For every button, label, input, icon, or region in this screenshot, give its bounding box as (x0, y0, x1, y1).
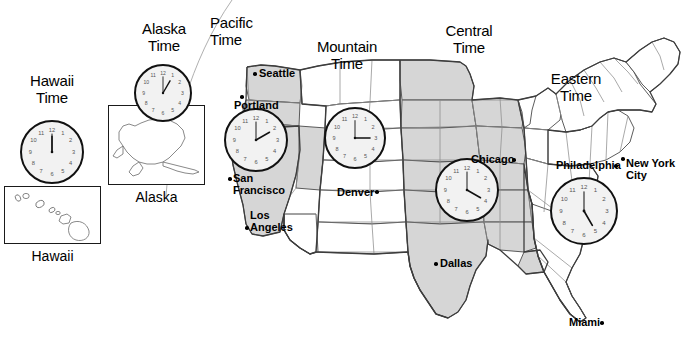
clock-face-pacific: 1212 345 678 91011 (226, 110, 286, 170)
clock-face-central: 1212 345 678 91011 (437, 160, 497, 220)
svg-text:6: 6 (582, 231, 586, 238)
svg-text:4: 4 (69, 160, 72, 166)
city-dot-dallas (434, 262, 438, 266)
city-dot-seattle (253, 72, 257, 76)
svg-text:11: 11 (569, 186, 576, 193)
clock-face-alaska: 1212 345 678 91011 (136, 66, 190, 120)
svg-text:9: 9 (233, 137, 236, 143)
svg-text:3: 3 (605, 207, 609, 214)
svg-text:8: 8 (562, 219, 566, 226)
svg-text:2: 2 (602, 195, 606, 202)
city-label-portland: Portland (234, 99, 279, 111)
svg-text:12: 12 (253, 115, 259, 121)
svg-text:11: 11 (38, 130, 44, 136)
clock-center (51, 151, 54, 154)
clock-face-eastern: 1212 345 678 91011 (552, 179, 616, 243)
city-label-philadelphia: Philadelphia (556, 159, 621, 171)
svg-text:12: 12 (581, 183, 588, 190)
florida-detail (566, 282, 586, 318)
hawaii-islands-shape (5, 187, 102, 245)
hour-hand (256, 132, 270, 140)
city-dot-los-angeles (245, 226, 249, 230)
svg-text:2: 2 (69, 137, 72, 143)
svg-text:11: 11 (453, 168, 459, 174)
svg-text:3: 3 (181, 90, 184, 96)
hour-hand (163, 81, 170, 93)
hour-hand (467, 190, 481, 198)
clock-center (255, 139, 258, 142)
city-label-miami: Miami (569, 316, 600, 328)
city-label-seattle: Seattle (259, 67, 295, 79)
svg-text:5: 5 (265, 156, 268, 162)
svg-text:2: 2 (273, 125, 276, 131)
svg-text:12: 12 (160, 70, 166, 76)
svg-text:2: 2 (484, 175, 487, 181)
svg-text:1: 1 (61, 130, 64, 136)
city-label-san-francisco: San Francisco (233, 172, 285, 196)
alaska-inset-caption: Alaska (108, 189, 205, 205)
svg-text:1: 1 (364, 116, 367, 122)
svg-text:7: 7 (343, 153, 346, 159)
city-dot-portland (240, 95, 244, 99)
svg-text:7: 7 (40, 168, 43, 174)
svg-text:4: 4 (484, 198, 487, 204)
svg-text:9: 9 (142, 90, 145, 96)
hour-hand (584, 211, 592, 225)
clock-face-hawaii: 1212 345 678 91011 (22, 122, 82, 182)
zone-title-pacific: Pacific Time (210, 14, 294, 48)
svg-text:2: 2 (178, 79, 181, 85)
svg-text:7: 7 (244, 156, 247, 162)
city-dot-denver (375, 190, 379, 194)
svg-text:4: 4 (602, 219, 606, 226)
zone-title-alaska: Alaska Time (122, 20, 206, 54)
svg-text:10: 10 (334, 124, 340, 130)
zone-title-mountain: Mountain Time (300, 38, 394, 72)
svg-text:12: 12 (352, 113, 358, 119)
clock-central: 1212 345 678 91011 (435, 158, 499, 222)
svg-text:9: 9 (559, 207, 563, 214)
svg-text:6: 6 (162, 110, 165, 116)
svg-text:1: 1 (265, 118, 268, 124)
city-label-denver: Denver (337, 186, 374, 198)
clock-center (583, 210, 586, 213)
city-label-los-angeles: Los Angeles (250, 209, 293, 233)
svg-text:3: 3 (374, 135, 377, 141)
svg-text:7: 7 (571, 227, 575, 234)
zone-title-eastern: Eastern Time (530, 70, 622, 104)
svg-text:11: 11 (342, 116, 348, 122)
svg-text:10: 10 (143, 79, 149, 85)
clock-pacific: 1212 345 678 91011 (224, 108, 288, 172)
svg-text:4: 4 (273, 148, 276, 154)
svg-text:1: 1 (594, 186, 598, 193)
svg-text:6: 6 (254, 159, 257, 165)
svg-text:6: 6 (465, 209, 468, 215)
svg-text:8: 8 (236, 148, 239, 154)
svg-text:10: 10 (561, 195, 568, 202)
zone-title-hawaii: Hawaii Time (10, 72, 94, 106)
clock-eastern: 1212 345 678 91011 (550, 177, 618, 245)
svg-text:9: 9 (333, 135, 336, 141)
svg-text:11: 11 (242, 118, 248, 124)
svg-text:9: 9 (444, 187, 447, 193)
svg-text:8: 8 (447, 198, 450, 204)
svg-text:1: 1 (476, 168, 479, 174)
svg-text:11: 11 (151, 72, 156, 78)
svg-text:7: 7 (455, 206, 458, 212)
svg-text:8: 8 (32, 160, 35, 166)
svg-text:4: 4 (178, 100, 181, 106)
city-dot-san-francisco (228, 177, 232, 181)
hawaii-inset-box (4, 186, 101, 244)
svg-text:8: 8 (145, 100, 148, 106)
clock-mountain: 1212 345 678 91011 (324, 107, 386, 169)
svg-text:3: 3 (487, 187, 490, 193)
zone-title-central: Central Time (425, 22, 513, 56)
svg-text:6: 6 (50, 171, 53, 177)
clock-center (354, 137, 357, 140)
svg-text:5: 5 (476, 206, 479, 212)
svg-text:5: 5 (364, 153, 367, 159)
city-label-dallas: Dallas (440, 257, 472, 269)
clock-face-mountain: 1212 345 678 91011 (326, 109, 384, 167)
svg-text:5: 5 (61, 168, 64, 174)
svg-text:10: 10 (30, 137, 36, 143)
time-zone-map-figure: Hawaii Time Alaska Time Pacific Time Mou… (0, 0, 691, 337)
